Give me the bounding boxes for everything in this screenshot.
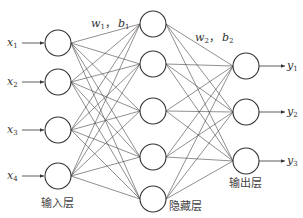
input-node-3 — [45, 117, 71, 143]
edge-l2-n2-to-n3 — [166, 64, 233, 161]
input-node-2 — [45, 69, 71, 95]
output-label-y3: y3 — [286, 154, 298, 168]
edge-l2-n5-to-n2 — [166, 112, 233, 199]
input-label-x1: x1 — [7, 36, 18, 50]
input-label-x3: x3 — [7, 123, 18, 137]
hidden-node-3 — [140, 98, 166, 124]
edge-l2-n1-to-n3 — [166, 24, 233, 161]
output-label-y1: y1 — [286, 59, 298, 73]
edge-l2-n4-to-n3 — [166, 157, 233, 161]
input-node-1 — [45, 30, 71, 56]
edge-l1-n4-to-n5 — [71, 176, 140, 199]
hidden-node-2 — [140, 51, 166, 77]
input-layer-label: 输入层 — [41, 196, 74, 210]
output-node-1 — [233, 53, 259, 79]
edge-l2-n4-to-n1 — [166, 66, 233, 157]
edge-l2-n5-to-n1 — [166, 66, 233, 199]
weights-label-2: w2，b2 — [195, 31, 233, 45]
edge-l2-n2-to-n1 — [166, 64, 233, 66]
input-label-x4: x4 — [7, 169, 18, 183]
neural-network-diagram: x1x2x3x4y1y2y3 w1，b1 w2，b2 输入层 隐藏层 输出层 — [0, 0, 303, 218]
edge-l1-n2-to-n3 — [71, 82, 140, 111]
hidden-layer-label: 隐藏层 — [169, 200, 202, 213]
weights-label-1: w1，b1 — [91, 17, 129, 31]
edge-l2-n3-to-n1 — [166, 66, 233, 111]
hidden-node-1 — [140, 11, 166, 37]
hidden-node-4 — [140, 144, 166, 170]
input-label-x2: x2 — [7, 75, 18, 89]
output-node-2 — [233, 99, 259, 125]
output-layer-label: 输出层 — [229, 176, 262, 190]
output-label-y2: y2 — [286, 105, 298, 119]
input-node-4 — [45, 163, 71, 189]
edge-l2-n2-to-n2 — [166, 64, 233, 112]
hidden-node-5 — [140, 186, 166, 212]
edge-l2-n5-to-n3 — [166, 161, 233, 199]
output-node-3 — [233, 148, 259, 174]
